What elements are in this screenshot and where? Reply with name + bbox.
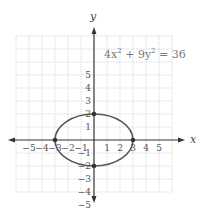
svg-text:−3: −3 [78,174,92,184]
svg-text:1: 1 [104,143,110,153]
svg-text:5: 5 [156,143,162,153]
ellipse-graph: x y −5 −4 −3 −2 −1 1 2 3 4 5 5 4 3 2 1 −… [0,0,207,212]
svg-text:4: 4 [85,83,91,93]
svg-text:2: 2 [117,143,123,153]
svg-text:−2: −2 [61,143,74,153]
x-axis-label: x [190,133,197,146]
svg-text:−4: −4 [35,143,49,153]
x-axis [8,138,185,143]
svg-text:−4: −4 [78,187,92,197]
svg-text:3: 3 [85,96,91,106]
x-axis-left-arrow-icon [8,138,15,143]
x-axis-right-arrow-icon [178,138,185,143]
y-axis-down-arrow-icon [92,196,97,203]
y-axis-up-arrow-icon [92,27,97,34]
equation-label: 4x2 + 9y2 = 36 [104,47,186,61]
svg-text:−5: −5 [22,143,36,153]
point-y-neg2 [92,164,97,169]
point-x-neg3 [53,138,58,143]
svg-text:4: 4 [143,143,149,153]
svg-text:−5: −5 [78,200,92,210]
x-tick-labels: −5 −4 −3 −2 −1 1 2 3 4 5 [22,143,162,153]
point-y-2 [92,112,97,117]
svg-text:−1: −1 [78,148,91,158]
y-axis-label: y [89,10,97,23]
point-x-3 [131,138,136,143]
svg-text:1: 1 [85,122,91,132]
svg-text:5: 5 [85,70,91,80]
